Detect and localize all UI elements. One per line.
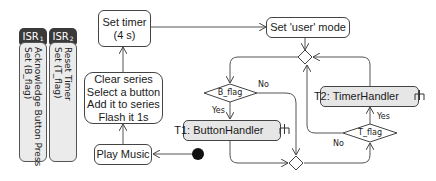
b-flag-label: B_flag <box>215 88 245 97</box>
t-flag-label: T_flag <box>355 128 385 137</box>
initial-node <box>192 148 204 160</box>
t1-label: T1: ButtonHandler <box>174 124 263 137</box>
t2-label: T2: TimerHandler <box>314 90 399 103</box>
set-timer-node: Set timer (4 s) <box>98 10 151 47</box>
clear-series-node: Clear series Select a button Add it to s… <box>84 72 163 124</box>
merge-diamond-top <box>298 50 312 64</box>
b-yes-label: Yes <box>212 106 225 115</box>
t-no-label: No <box>333 139 344 148</box>
play-music-node: Play Music <box>94 144 152 165</box>
b-no-label: No <box>258 80 269 89</box>
set-user-mode-node: Set 'user' mode <box>266 17 350 38</box>
t-yes-label: Yes <box>377 112 390 121</box>
rake-icon <box>267 112 290 150</box>
rake-icon <box>402 78 425 116</box>
merge-diamond-bottom <box>289 156 303 170</box>
t1-button-handler-node: T1: ButtonHandler <box>183 120 281 141</box>
t2-timer-handler-node: T2: TimerHandler <box>320 86 419 107</box>
